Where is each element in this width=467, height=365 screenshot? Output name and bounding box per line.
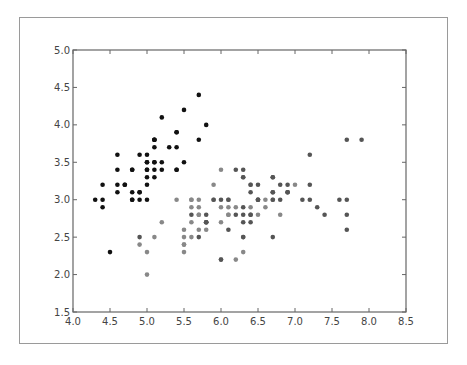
data-point-virginica: [226, 227, 231, 232]
x-tick-label: 5.0: [139, 316, 155, 327]
data-point-versicolor: [204, 227, 209, 232]
data-point-virginica: [359, 138, 364, 143]
data-point-virginica: [308, 182, 313, 187]
y-tick-label: 4.5: [54, 82, 70, 93]
data-point-versicolor: [137, 242, 142, 247]
data-point-virginica: [271, 190, 276, 195]
x-tick-label: 8.0: [361, 316, 377, 327]
data-point-virginica: [189, 212, 194, 217]
data-point-versicolor: [211, 182, 216, 187]
data-point-versicolor: [226, 212, 231, 217]
x-tick-label: 4.5: [102, 316, 118, 327]
scatter-chart: 4.04.55.05.56.06.57.07.58.08.5 1.52.02.5…: [0, 0, 467, 365]
data-point-versicolor: [234, 205, 239, 210]
data-point-versicolor: [219, 205, 224, 210]
data-point-versicolor: [182, 242, 187, 247]
data-point-versicolor: [248, 205, 253, 210]
data-point-setosa: [152, 138, 157, 143]
y-tick-label: 4.0: [54, 119, 70, 130]
data-point-virginica: [337, 197, 342, 202]
data-point-virginica: [322, 212, 327, 217]
x-axis-ticks: 4.04.55.05.56.06.57.07.58.08.5: [65, 50, 414, 327]
data-point-versicolor: [263, 205, 268, 210]
data-point-setosa: [145, 197, 150, 202]
data-point-setosa: [137, 153, 142, 158]
x-tick-label: 6.0: [213, 316, 229, 327]
data-point-setosa: [100, 205, 105, 210]
data-point-setosa: [152, 160, 157, 165]
data-point-versicolor: [241, 250, 246, 255]
x-tick-label: 5.5: [176, 316, 192, 327]
data-point-virginica: [219, 197, 224, 202]
data-point-virginica: [271, 235, 276, 240]
data-point-setosa: [100, 182, 105, 187]
data-point-virginica: [308, 197, 313, 202]
data-point-virginica: [315, 205, 320, 210]
data-point-virginica: [226, 197, 231, 202]
data-point-versicolor: [189, 235, 194, 240]
data-point-setosa: [108, 250, 113, 255]
data-point-versicolor: [219, 220, 224, 225]
data-point-virginica: [241, 205, 246, 210]
data-point-virginica: [285, 182, 290, 187]
data-point-virginica: [137, 235, 142, 240]
data-point-virginica: [300, 197, 305, 202]
data-point-versicolor: [197, 205, 202, 210]
data-point-versicolor: [263, 197, 268, 202]
data-point-setosa: [130, 168, 135, 173]
data-point-virginica: [241, 212, 246, 217]
data-point-versicolor: [189, 205, 194, 210]
data-point-versicolor: [219, 168, 224, 173]
data-point-versicolor: [189, 197, 194, 202]
data-point-setosa: [204, 123, 209, 128]
data-point-versicolor: [182, 227, 187, 232]
data-point-setosa: [137, 190, 142, 195]
data-point-versicolor: [234, 257, 239, 262]
data-point-setosa: [197, 138, 202, 143]
data-point-virginica: [219, 257, 224, 262]
data-point-versicolor: [174, 197, 179, 202]
data-point-setosa: [160, 168, 165, 173]
data-point-virginica: [308, 153, 313, 158]
data-point-versicolor: [256, 212, 261, 217]
y-axis-ticks: 1.52.02.53.03.54.04.55.0: [54, 45, 406, 318]
data-point-setosa: [174, 168, 179, 173]
data-point-virginica: [234, 212, 239, 217]
data-point-setosa: [137, 197, 142, 202]
data-point-setosa: [152, 168, 157, 173]
data-point-setosa: [145, 175, 150, 180]
data-point-virginica: [345, 197, 350, 202]
y-tick-label: 3.5: [54, 157, 70, 168]
x-tick-label: 8.5: [398, 316, 414, 327]
data-point-setosa: [145, 182, 150, 187]
data-point-virginica: [271, 197, 276, 202]
data-point-setosa: [160, 160, 165, 165]
y-tick-label: 2.5: [54, 232, 70, 243]
data-point-virginica: [285, 190, 290, 195]
axes-box: [73, 50, 406, 312]
data-point-versicolor: [278, 212, 283, 217]
data-point-virginica: [241, 175, 246, 180]
data-point-virginica: [256, 182, 261, 187]
data-point-virginica: [204, 212, 209, 217]
data-point-setosa: [152, 175, 157, 180]
data-point-virginica: [234, 168, 239, 173]
data-point-setosa: [93, 197, 98, 202]
y-tick-label: 5.0: [54, 45, 70, 56]
data-point-setosa: [197, 93, 202, 98]
data-point-setosa: [100, 197, 105, 202]
x-tick-label: 7.0: [287, 316, 303, 327]
data-point-setosa: [130, 190, 135, 195]
data-point-virginica: [211, 197, 216, 202]
data-point-setosa: [152, 145, 157, 150]
data-point-setosa: [115, 168, 120, 173]
data-point-setosa: [174, 145, 179, 150]
data-point-setosa: [160, 115, 165, 120]
data-point-versicolor: [160, 220, 165, 225]
data-point-virginica: [345, 138, 350, 143]
data-point-versicolor: [197, 197, 202, 202]
data-point-setosa: [115, 190, 120, 195]
x-tick-label: 6.5: [250, 316, 266, 327]
data-point-virginica: [248, 212, 253, 217]
data-point-versicolor: [182, 235, 187, 240]
